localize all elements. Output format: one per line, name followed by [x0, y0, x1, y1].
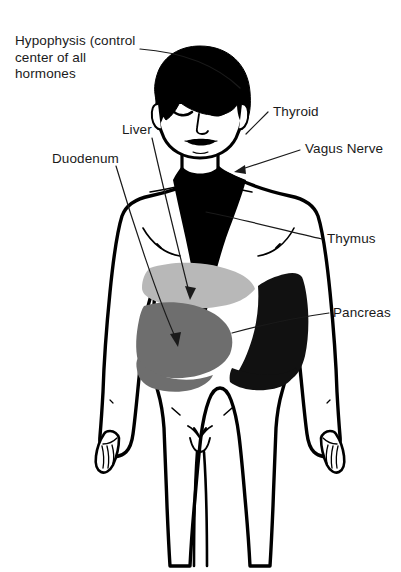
leader-vagus	[239, 150, 300, 170]
anatomical-diagram: Hypophysis (control center of all hormon…	[0, 0, 401, 572]
right-hip-crease	[224, 408, 232, 415]
label-vagus-nerve: Vagus Nerve	[305, 141, 383, 158]
body-illustration	[0, 0, 401, 572]
label-liver: Liver	[122, 122, 152, 139]
leader-vagus-arrowhead	[234, 165, 246, 174]
label-duodenum: Duodenum	[52, 151, 119, 168]
inner-leg-right	[204, 452, 207, 566]
label-thyroid: Thyroid	[273, 104, 319, 121]
label-pancreas: Pancreas	[333, 305, 391, 322]
label-hypophysis: Hypophysis (control center of all hormon…	[15, 33, 135, 83]
label-thymus: Thymus	[327, 231, 376, 248]
